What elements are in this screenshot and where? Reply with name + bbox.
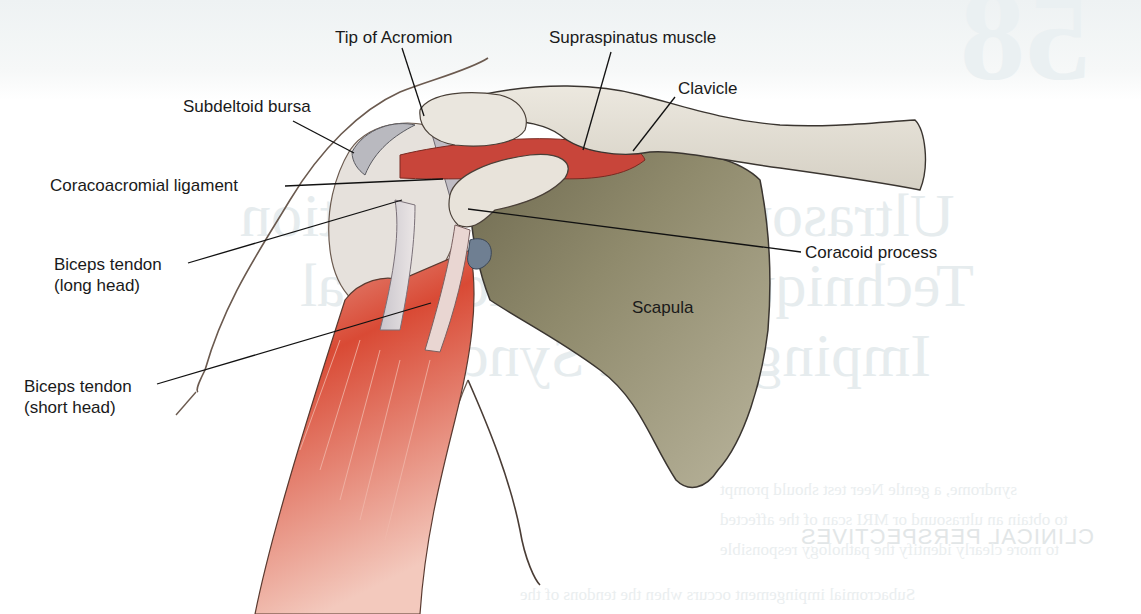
- label-biceps-long-head-line2: (long head): [54, 275, 162, 296]
- arm-contour-line: [176, 392, 196, 415]
- label-biceps-long-head: Biceps tendon (long head): [54, 254, 162, 296]
- leader-subdeltoid-bursa: [293, 121, 354, 153]
- label-scapula: Scapula: [632, 297, 693, 318]
- shoulder-anatomy-illustration: [0, 0, 1141, 614]
- label-supraspinatus-muscle: Supraspinatus muscle: [549, 27, 716, 48]
- label-biceps-long-head-line1: Biceps tendon: [54, 254, 162, 275]
- label-clavicle: Clavicle: [678, 78, 738, 99]
- leader-tip-of-acromion: [402, 48, 424, 116]
- label-biceps-short-head: Biceps tendon (short head): [24, 376, 132, 418]
- label-subdeltoid-bursa: Subdeltoid bursa: [183, 96, 311, 117]
- label-coracoacromial-ligament: Coracoacromial ligament: [50, 175, 238, 196]
- label-tip-of-acromion: Tip of Acromion: [335, 27, 452, 48]
- label-coracoid-process: Coracoid process: [805, 242, 937, 263]
- label-biceps-short-head-line2: (short head): [24, 397, 132, 418]
- label-biceps-short-head-line1: Biceps tendon: [24, 376, 132, 397]
- acromion-bone: [420, 93, 526, 146]
- chest-contour-line: [468, 380, 540, 585]
